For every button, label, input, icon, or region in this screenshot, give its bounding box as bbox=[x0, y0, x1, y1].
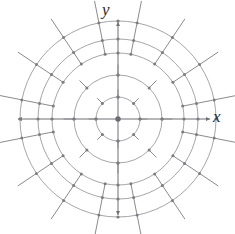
direction-tick-dot bbox=[132, 102, 135, 105]
direction-tick bbox=[80, 150, 87, 157]
direction-tick-dot bbox=[161, 184, 164, 187]
axis-intersection-dot bbox=[94, 117, 97, 120]
direction-tick-dot bbox=[171, 199, 174, 202]
axis-intersection-dot bbox=[116, 139, 119, 142]
direction-tick bbox=[18, 173, 36, 185]
direction-tick bbox=[173, 75, 184, 82]
direction-tick-dot bbox=[183, 162, 186, 165]
direction-tick-dot bbox=[129, 182, 132, 185]
direction-tick-dot bbox=[80, 172, 83, 175]
direction-tick-dot bbox=[136, 21, 139, 24]
direction-tick-dot bbox=[85, 86, 88, 89]
axis-intersection-dot bbox=[116, 37, 119, 40]
direction-tick-dot bbox=[132, 133, 135, 136]
axis-intersection-dot bbox=[116, 73, 119, 76]
axis-intersection-dot bbox=[116, 95, 119, 98]
direction-tick-dot bbox=[195, 102, 198, 105]
direction-tick-dot bbox=[52, 130, 55, 133]
direction-tick bbox=[185, 66, 198, 75]
direction-tick bbox=[24, 135, 40, 138]
axis-intersection-dot bbox=[116, 215, 119, 218]
direction-tick-dot bbox=[80, 63, 83, 66]
direction-tick-dot bbox=[97, 21, 100, 24]
direction-tick-dot bbox=[132, 39, 135, 42]
direction-tick-dot bbox=[35, 63, 38, 66]
direction-tick bbox=[162, 186, 171, 199]
direction-tick bbox=[155, 174, 162, 185]
direction-tick-dot bbox=[97, 214, 100, 217]
direction-tick-dot bbox=[20, 137, 23, 140]
direction-tick bbox=[131, 184, 134, 197]
direction-tick-dot bbox=[136, 214, 139, 217]
direction-tick-dot bbox=[35, 172, 38, 175]
axis-intersection-dot bbox=[72, 117, 75, 120]
direction-tick bbox=[200, 52, 218, 64]
direction-tick bbox=[24, 100, 40, 103]
y-axis-arrowhead-negative bbox=[116, 211, 120, 215]
direction-tick bbox=[103, 42, 106, 55]
direction-tick bbox=[74, 53, 81, 64]
direction-tick bbox=[74, 174, 81, 185]
direction-tick bbox=[65, 39, 74, 52]
axis-intersection-dot bbox=[116, 51, 119, 54]
direction-tick-dot bbox=[85, 149, 88, 152]
axis-intersection-dot bbox=[160, 117, 163, 120]
direction-tick-dot bbox=[148, 86, 151, 89]
direction-tick-dot bbox=[104, 53, 107, 56]
direction-tick bbox=[155, 53, 162, 64]
axis-intersection-dot bbox=[50, 117, 53, 120]
direction-tick-dot bbox=[213, 137, 216, 140]
direction-tick-dot bbox=[198, 63, 201, 66]
direction-tick bbox=[149, 150, 156, 157]
direction-tick bbox=[131, 42, 134, 55]
direction-tick-dot bbox=[153, 63, 156, 66]
direction-tick bbox=[172, 201, 184, 219]
direction-tick-dot bbox=[153, 172, 156, 175]
direction-tick bbox=[99, 198, 102, 214]
direction-tick-dot bbox=[62, 81, 65, 84]
origin-dot bbox=[115, 116, 120, 121]
direction-tick bbox=[80, 81, 87, 88]
direction-tick bbox=[134, 198, 137, 214]
direction-tick bbox=[18, 52, 36, 64]
axis-intersection-dot bbox=[138, 117, 141, 120]
direction-tick bbox=[185, 163, 198, 172]
direction-tick bbox=[0, 96, 22, 100]
direction-tick bbox=[99, 25, 102, 41]
direction-tick bbox=[103, 184, 106, 197]
direction-tick bbox=[149, 81, 156, 88]
axis-intersection-dot bbox=[116, 161, 119, 164]
direction-tick-dot bbox=[181, 130, 184, 133]
x-axis-label: x bbox=[213, 108, 221, 125]
direction-tick bbox=[172, 19, 184, 37]
direction-tick bbox=[38, 66, 51, 75]
direction-tick-dot bbox=[171, 154, 174, 157]
direction-tick bbox=[0, 138, 22, 142]
direction-tick bbox=[52, 75, 63, 82]
direction-tick bbox=[183, 132, 196, 135]
axis-intersection-dot bbox=[182, 117, 185, 120]
axis-intersection-dot bbox=[116, 197, 119, 200]
direction-tick bbox=[41, 104, 54, 107]
axis-intersection-dot bbox=[18, 117, 21, 120]
y-axis-arrowhead-positive bbox=[116, 22, 120, 26]
direction-tick bbox=[38, 163, 51, 172]
direction-tick bbox=[197, 135, 213, 138]
direction-tick-dot bbox=[50, 73, 53, 76]
direction-tick bbox=[95, 1, 99, 23]
direction-tick-dot bbox=[101, 102, 104, 105]
direction-tick-dot bbox=[171, 81, 174, 84]
axis-intersection-dot bbox=[116, 19, 119, 22]
field-canvas bbox=[0, 0, 235, 234]
direction-tick-dot bbox=[148, 149, 151, 152]
direction-tick-dot bbox=[181, 105, 184, 108]
direction-tick bbox=[214, 96, 235, 100]
direction-tick-dot bbox=[62, 154, 65, 157]
direction-tick-dot bbox=[38, 102, 41, 105]
direction-tick-dot bbox=[132, 196, 135, 199]
direction-tick bbox=[95, 215, 99, 234]
direction-tick-dot bbox=[198, 172, 201, 175]
direction-tick-dot bbox=[129, 53, 132, 56]
direction-tick-dot bbox=[171, 36, 174, 39]
direction-tick-dot bbox=[20, 98, 23, 101]
